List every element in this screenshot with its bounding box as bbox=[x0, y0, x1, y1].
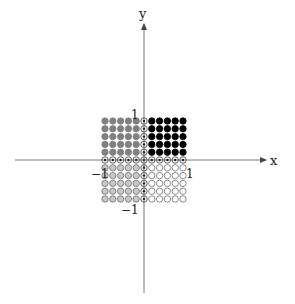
bottom-right-point bbox=[164, 165, 170, 171]
top-left-point bbox=[102, 149, 108, 155]
bottom-right-point bbox=[156, 196, 162, 202]
bottom-right-point bbox=[180, 188, 186, 194]
top-right-point bbox=[149, 118, 155, 124]
x-axis-label: x bbox=[270, 153, 278, 168]
top-right-point bbox=[164, 118, 170, 124]
bottom-right-point bbox=[149, 196, 155, 202]
bottom-left-point bbox=[133, 188, 139, 194]
bottom-left-point bbox=[117, 188, 123, 194]
top-left-point bbox=[110, 133, 116, 139]
bottom-right-point bbox=[172, 180, 178, 186]
top-right-point bbox=[164, 149, 170, 155]
tick-label-y-pos: 1 bbox=[131, 108, 139, 122]
tick-label-x-neg: −1 bbox=[91, 167, 109, 181]
top-left-point bbox=[133, 133, 139, 139]
bottom-left-point bbox=[125, 172, 131, 178]
bottom-left-point bbox=[125, 196, 131, 202]
bottom-left-point bbox=[117, 165, 123, 171]
tick-label-y-neg: −1 bbox=[121, 203, 139, 217]
top-left-point bbox=[125, 126, 131, 132]
top-left-point bbox=[102, 126, 108, 132]
tick-label-x-pos: 1 bbox=[186, 167, 194, 181]
top-right-point bbox=[156, 126, 162, 132]
bottom-left-point bbox=[125, 188, 131, 194]
bottom-right-point bbox=[180, 196, 186, 202]
top-right-point bbox=[180, 133, 186, 139]
bottom-right-point bbox=[164, 196, 170, 202]
top-left-point bbox=[117, 141, 123, 147]
bottom-left-point bbox=[117, 196, 123, 202]
top-right-point bbox=[172, 141, 178, 147]
top-right-point bbox=[156, 149, 162, 155]
bottom-right-point bbox=[164, 188, 170, 194]
bottom-left-point bbox=[110, 180, 116, 186]
bottom-left-point bbox=[125, 180, 131, 186]
bottom-left-point bbox=[117, 172, 123, 178]
top-right-point bbox=[156, 141, 162, 147]
top-right-point bbox=[172, 126, 178, 132]
bottom-right-point bbox=[180, 180, 186, 186]
bottom-right-point bbox=[156, 172, 162, 178]
top-left-point bbox=[110, 141, 116, 147]
bottom-right-point bbox=[172, 172, 178, 178]
bottom-left-point bbox=[110, 196, 116, 202]
top-right-point bbox=[180, 118, 186, 124]
top-right-point bbox=[172, 133, 178, 139]
bottom-left-point bbox=[125, 165, 131, 171]
bottom-left-point bbox=[110, 172, 116, 178]
top-right-point bbox=[156, 133, 162, 139]
top-left-point bbox=[117, 149, 123, 155]
top-left-point bbox=[125, 149, 131, 155]
top-right-point bbox=[180, 149, 186, 155]
bottom-left-point bbox=[102, 180, 108, 186]
bottom-left-point bbox=[133, 196, 139, 202]
bottom-right-point bbox=[164, 180, 170, 186]
bottom-right-point bbox=[156, 165, 162, 171]
bottom-right-point bbox=[156, 180, 162, 186]
bottom-left-point bbox=[102, 188, 108, 194]
bottom-left-point bbox=[133, 172, 139, 178]
top-right-point bbox=[149, 149, 155, 155]
bottom-right-point bbox=[172, 188, 178, 194]
top-left-point bbox=[117, 118, 123, 124]
top-right-point bbox=[149, 133, 155, 139]
bottom-left-point bbox=[110, 165, 116, 171]
top-left-point bbox=[125, 141, 131, 147]
bottom-right-point bbox=[156, 188, 162, 194]
top-left-point bbox=[133, 141, 139, 147]
top-right-point bbox=[149, 126, 155, 132]
top-right-point bbox=[164, 141, 170, 147]
bottom-right-point bbox=[149, 165, 155, 171]
top-left-point bbox=[110, 118, 116, 124]
bottom-right-point bbox=[149, 188, 155, 194]
bottom-left-point bbox=[133, 180, 139, 186]
top-right-point bbox=[164, 133, 170, 139]
top-right-point bbox=[180, 141, 186, 147]
top-left-point bbox=[102, 133, 108, 139]
bottom-right-point bbox=[172, 165, 178, 171]
bottom-right-point bbox=[164, 172, 170, 178]
top-left-point bbox=[110, 126, 116, 132]
bottom-left-point bbox=[133, 165, 139, 171]
top-left-point bbox=[110, 149, 116, 155]
bottom-right-point bbox=[149, 172, 155, 178]
bottom-left-point bbox=[102, 196, 108, 202]
top-left-point bbox=[125, 133, 131, 139]
bottom-left-point bbox=[110, 188, 116, 194]
top-right-point bbox=[172, 118, 178, 124]
top-right-point bbox=[164, 126, 170, 132]
top-left-point bbox=[117, 133, 123, 139]
top-right-point bbox=[149, 141, 155, 147]
bottom-left-point bbox=[117, 180, 123, 186]
top-right-point bbox=[156, 118, 162, 124]
top-right-point bbox=[180, 126, 186, 132]
top-left-point bbox=[117, 126, 123, 132]
top-left-point bbox=[102, 141, 108, 147]
lattice-diagram: x y 1 −1 1 −1 bbox=[0, 0, 295, 304]
y-axis-label: y bbox=[138, 6, 147, 21]
bottom-right-point bbox=[149, 180, 155, 186]
top-right-point bbox=[172, 149, 178, 155]
top-left-point bbox=[133, 126, 139, 132]
top-left-point bbox=[133, 149, 139, 155]
top-left-point bbox=[102, 118, 108, 124]
